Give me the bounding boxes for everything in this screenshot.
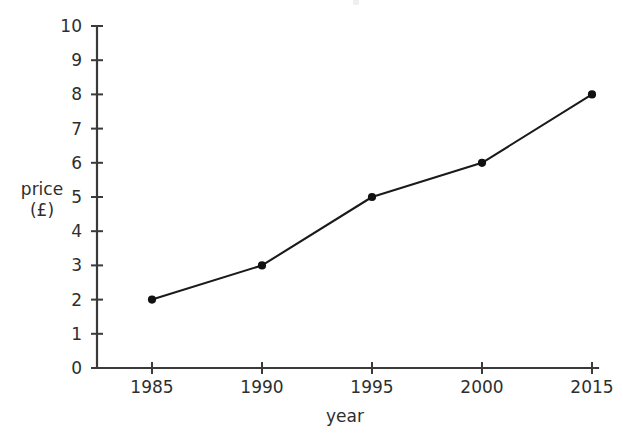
x-tick-label-2015: 2015 — [570, 379, 613, 396]
y-axis-title-line-1: price — [21, 179, 63, 200]
x-axis-title: year — [326, 406, 364, 427]
y-tick-label-4: 4 — [52, 223, 82, 240]
y-axis-title: price (£) — [21, 179, 63, 222]
y-tick-label-2: 2 — [52, 291, 82, 308]
chart-plot-area — [0, 0, 623, 437]
y-tick-label-3: 3 — [52, 257, 82, 274]
y-tick-label-6: 6 — [52, 154, 82, 171]
x-tick-label-1985: 1985 — [130, 379, 173, 396]
y-tick-label-1: 1 — [52, 325, 82, 342]
y-axis-title-line-2: (£) — [21, 200, 63, 221]
line-chart: 0 1 2 3 4 5 6 7 8 9 10 1985 1990 1995 20… — [0, 0, 623, 437]
data-point — [368, 193, 376, 201]
data-point — [258, 261, 266, 269]
x-tick-label-1995: 1995 — [350, 379, 393, 396]
y-tick-label-9: 9 — [52, 52, 82, 69]
y-tick-label-0: 0 — [52, 360, 82, 377]
x-tick-label-1990: 1990 — [240, 379, 283, 396]
y-tick-label-10: 10 — [52, 18, 82, 35]
y-tick-label-8: 8 — [52, 86, 82, 103]
data-point — [148, 296, 156, 304]
data-point — [478, 159, 486, 167]
data-point-markers — [148, 90, 596, 303]
y-tick-label-7: 7 — [52, 120, 82, 137]
data-point — [588, 90, 596, 98]
x-tick-label-2000: 2000 — [460, 379, 503, 396]
